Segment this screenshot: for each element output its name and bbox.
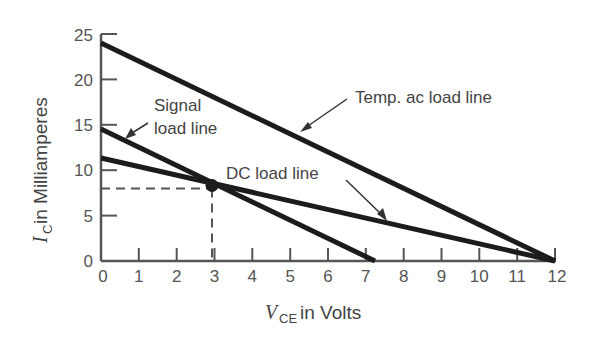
q-point-marker	[206, 179, 219, 192]
svg-text:15: 15	[74, 116, 93, 135]
svg-text:7: 7	[361, 267, 370, 286]
svg-text:9: 9	[437, 267, 446, 286]
svg-text:5: 5	[285, 267, 294, 286]
signal-arrow	[132, 123, 148, 133]
svg-text:12: 12	[548, 267, 567, 286]
dc-load-line	[101, 158, 555, 261]
svg-text:0: 0	[98, 267, 107, 286]
svg-text:1: 1	[134, 267, 143, 286]
svg-text:10: 10	[74, 161, 93, 180]
svg-text:2: 2	[172, 267, 181, 286]
svg-text:11: 11	[508, 267, 526, 286]
svg-text:in Volts: in Volts	[300, 302, 361, 323]
svg-text:V: V	[265, 301, 280, 323]
svg-text:20: 20	[74, 71, 93, 90]
svg-text:8: 8	[399, 267, 408, 286]
svg-text:3: 3	[210, 267, 219, 286]
signal-annotation-line1: Signal	[154, 96, 201, 115]
x-tick-labels: 0 1 2 3 4 5 6 7 8 9 10 11 12	[98, 267, 566, 286]
svg-text:in Milliamperes: in Milliamperes	[30, 97, 51, 224]
x-axis-title: V CE in Volts	[265, 301, 361, 326]
svg-text:25: 25	[74, 26, 93, 45]
svg-text:4: 4	[248, 267, 257, 286]
svg-text:5: 5	[84, 207, 93, 226]
temp-ac-load-line	[101, 43, 555, 261]
signal-load-line	[101, 129, 375, 261]
svg-text:C: C	[40, 225, 55, 234]
svg-text:I: I	[29, 235, 51, 244]
svg-text:0: 0	[84, 252, 93, 271]
load-line-chart: 0 5 10 15 20 25 0 1 2 3 4 5 6 7 8 9 10 1…	[0, 0, 597, 340]
temp-ac-annotation: Temp. ac load line	[355, 88, 492, 107]
svg-text:CE: CE	[279, 311, 297, 326]
svg-text:10: 10	[470, 267, 489, 286]
y-tick-labels: 0 5 10 15 20 25	[74, 26, 93, 271]
dc-arrow	[346, 180, 382, 215]
dc-annotation: DC load line	[226, 164, 319, 183]
signal-arrowhead-icon	[125, 128, 136, 139]
y-axis-title: I C in Milliamperes	[29, 97, 55, 244]
signal-annotation-line2: load line	[154, 119, 217, 138]
svg-text:6: 6	[323, 267, 332, 286]
temp-ac-arrow	[305, 99, 347, 128]
